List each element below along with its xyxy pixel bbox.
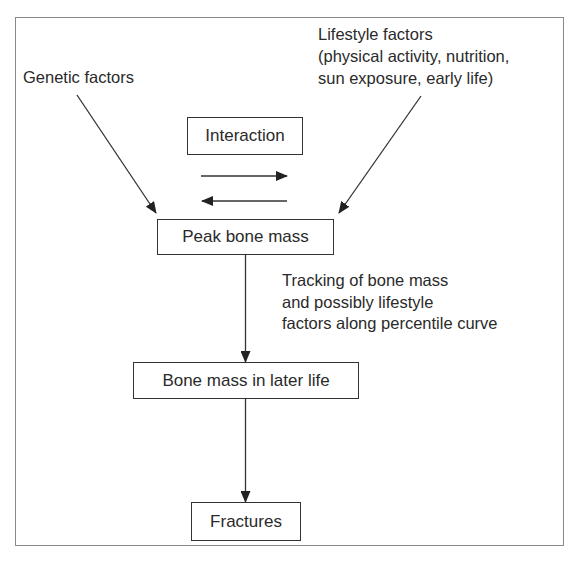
fractures-text: Fractures (210, 512, 282, 532)
bone-mass-later-life-text: Bone mass in later life (162, 371, 329, 391)
lifestyle-line-3: sun exposure, early life) (318, 67, 509, 89)
arrow-lifestyle-to-peak (339, 96, 421, 213)
interaction-text: Interaction (205, 126, 284, 146)
genetic-factors-text: Genetic factors (23, 66, 134, 88)
tracking-line-3: factors along percentile curve (282, 313, 498, 335)
lifestyle-factors-label: Lifestyle factors (physical activity, nu… (318, 23, 509, 89)
genetic-factors-label: Genetic factors (23, 66, 134, 88)
peak-bone-mass-text: Peak bone mass (182, 227, 309, 247)
arrow-genetic-to-peak (77, 95, 156, 213)
tracking-line-1: Tracking of bone mass (282, 270, 498, 292)
lifestyle-line-1: Lifestyle factors (318, 23, 509, 45)
peak-bone-mass-box: Peak bone mass (157, 219, 334, 255)
bone-mass-later-life-box: Bone mass in later life (133, 362, 359, 399)
fractures-box: Fractures (191, 502, 301, 541)
tracking-label: Tracking of bone mass and possibly lifes… (282, 270, 498, 335)
interaction-box: Interaction (187, 117, 303, 155)
tracking-line-2: and possibly lifestyle (282, 292, 498, 314)
lifestyle-line-2: (physical activity, nutrition, (318, 45, 509, 67)
